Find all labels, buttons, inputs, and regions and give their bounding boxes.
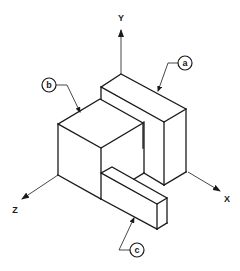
y-axis-label: Y xyxy=(118,13,124,23)
x-axis: X xyxy=(188,172,230,204)
block-b xyxy=(58,99,143,199)
callout-b: b xyxy=(42,78,80,112)
z-axis-label: Z xyxy=(12,205,18,215)
callout-c: c xyxy=(119,218,144,257)
z-axis: Z xyxy=(12,175,58,215)
callout-a: a xyxy=(158,56,192,91)
callout-c-label: c xyxy=(134,245,139,255)
x-axis-label: X xyxy=(224,194,230,204)
y-axis: Y xyxy=(118,13,124,74)
isometric-diagram: Y X Z xyxy=(0,0,240,271)
callout-b-label: b xyxy=(46,80,52,90)
block-c xyxy=(101,167,167,229)
